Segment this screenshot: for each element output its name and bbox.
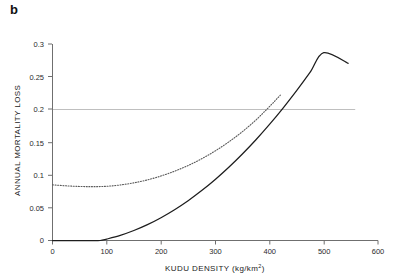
y-tick-label-0.05: 0.05 — [29, 204, 44, 213]
y-axis-tick-labels: 0 0.05 0.1 0.15 0.2 0.25 0.3 — [29, 40, 44, 245]
axes-group — [52, 44, 378, 241]
y-tick-label-0.3: 0.3 — [34, 40, 44, 49]
x-tick-label-100: 100 — [101, 247, 114, 256]
chart-canvas: 0 0.05 0.1 0.15 0.2 0.25 0.3 0 100 200 3… — [0, 0, 397, 278]
x-tick-label-500: 500 — [318, 247, 331, 256]
x-axis-title: KUDU DENSITY (kg/km2) — [165, 263, 265, 273]
y-axis-title: ANNUAL MORTALITY LOSS — [13, 85, 22, 196]
x-axis-ticks — [53, 241, 379, 245]
panel-label-b: b — [10, 2, 18, 17]
x-tick-label-600: 600 — [372, 247, 385, 256]
y-tick-label-0: 0 — [40, 236, 44, 245]
x-tick-label-300: 300 — [209, 247, 222, 256]
data-series-group — [53, 53, 349, 241]
series-lower-solid-curve — [53, 53, 349, 241]
y-tick-label-0.15: 0.15 — [29, 139, 44, 148]
y-tick-label-0.1: 0.1 — [34, 171, 44, 180]
y-tick-label-0.2: 0.2 — [34, 105, 44, 114]
x-tick-label-400: 400 — [264, 247, 277, 256]
x-tick-label-0: 0 — [50, 247, 54, 256]
figure-panel-b: b 0 0.05 0.1 0.15 0.2 0.25 — [0, 0, 397, 278]
y-axis-ticks — [48, 44, 52, 241]
x-tick-label-200: 200 — [155, 247, 168, 256]
y-tick-label-0.25: 0.25 — [29, 73, 44, 82]
x-axis-tick-labels: 0 100 200 300 400 500 600 — [50, 247, 384, 256]
series-upper-dotted-curve — [53, 95, 281, 187]
